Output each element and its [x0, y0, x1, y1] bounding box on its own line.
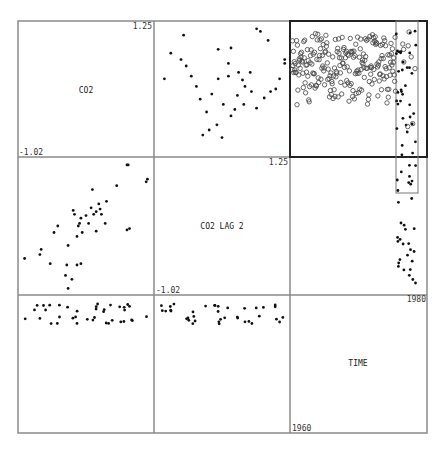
var-label-co2-lag2: CO2 LAG 2	[200, 222, 244, 231]
data-point	[347, 69, 351, 73]
data-point	[396, 179, 399, 182]
data-point	[95, 230, 98, 233]
data-point	[191, 322, 194, 325]
data-point	[53, 231, 56, 234]
data-point	[226, 307, 229, 310]
data-point	[244, 320, 247, 323]
data-point	[366, 97, 370, 101]
data-point	[399, 100, 402, 103]
data-point	[395, 33, 398, 36]
data-point	[396, 236, 399, 239]
data-point	[87, 222, 90, 225]
var-label-co2: CO2	[79, 86, 94, 95]
data-point	[409, 116, 412, 119]
data-point	[347, 99, 351, 103]
data-point	[76, 322, 79, 325]
data-point	[414, 282, 417, 285]
data-point	[392, 56, 396, 60]
data-point	[331, 55, 335, 59]
data-point	[233, 108, 236, 111]
data-point	[367, 79, 371, 83]
data-point	[205, 111, 208, 114]
data-point	[161, 309, 164, 312]
data-point	[236, 94, 239, 97]
data-point	[218, 322, 221, 325]
data-point	[278, 77, 281, 80]
data-point	[411, 260, 414, 263]
data-point	[370, 82, 374, 86]
data-point	[386, 95, 390, 99]
data-point	[170, 310, 173, 313]
data-point	[194, 320, 197, 323]
co2-max-label: 1.25	[133, 22, 152, 31]
data-point	[217, 305, 220, 308]
data-point	[319, 37, 323, 41]
data-point	[242, 103, 245, 106]
data-point	[283, 58, 286, 61]
data-point	[119, 321, 122, 324]
data-point	[303, 38, 307, 42]
data-point	[107, 322, 110, 325]
data-point	[24, 317, 27, 320]
data-point	[33, 309, 36, 312]
brush-rectangle[interactable]	[396, 21, 418, 193]
data-point	[255, 107, 258, 110]
data-point	[409, 268, 412, 271]
co2lag-min-label: -1.02	[156, 286, 180, 295]
data-point	[372, 77, 376, 81]
data-points	[23, 27, 417, 325]
data-point	[262, 306, 265, 309]
data-point	[230, 115, 233, 118]
data-point	[56, 322, 59, 325]
data-point	[248, 320, 251, 323]
data-point	[403, 224, 406, 227]
data-point	[414, 30, 417, 33]
data-point	[409, 31, 412, 34]
data-point	[326, 52, 330, 56]
data-point	[296, 88, 300, 92]
data-point	[223, 316, 226, 319]
data-point	[104, 222, 107, 225]
data-point	[222, 103, 225, 106]
data-point	[408, 274, 411, 277]
data-point	[227, 62, 230, 65]
data-point	[80, 262, 83, 265]
co2lag-max-label: 1.25	[269, 158, 288, 167]
data-point	[249, 71, 252, 74]
data-point	[399, 258, 402, 261]
data-point	[243, 307, 246, 310]
data-point	[414, 140, 417, 143]
data-point	[411, 152, 414, 155]
data-point	[96, 303, 99, 306]
data-point	[95, 308, 98, 311]
data-point	[390, 47, 394, 51]
data-point	[123, 309, 126, 312]
data-point	[408, 52, 411, 55]
data-point	[195, 85, 198, 88]
data-point	[413, 250, 416, 253]
data-point	[73, 213, 76, 216]
data-point	[306, 74, 310, 78]
data-point	[397, 240, 400, 243]
data-point	[397, 265, 400, 268]
data-point	[128, 227, 131, 230]
data-point	[403, 269, 406, 272]
data-point	[395, 52, 398, 55]
data-point	[412, 112, 415, 115]
data-point	[318, 38, 322, 42]
data-point	[402, 117, 405, 120]
data-point	[92, 213, 95, 216]
data-point	[301, 85, 305, 89]
data-point	[76, 264, 79, 267]
data-point	[40, 248, 43, 251]
data-point	[406, 66, 409, 69]
data-point	[36, 304, 39, 307]
data-point	[164, 310, 167, 313]
data-point	[408, 164, 411, 167]
data-point	[409, 55, 413, 59]
data-point	[278, 321, 281, 324]
data-point	[291, 49, 295, 53]
data-point	[255, 27, 258, 30]
data-point	[64, 274, 67, 277]
data-point	[339, 80, 343, 84]
